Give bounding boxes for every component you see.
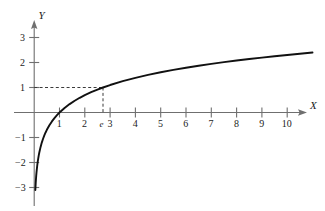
x-tick-label-9: 9 xyxy=(259,119,264,129)
x-tick-label-8: 8 xyxy=(234,119,239,129)
x-tick-label-7: 7 xyxy=(209,119,214,129)
x-tick-label-4: 4 xyxy=(133,119,138,129)
y-tick-label-minus-3: −3 xyxy=(15,183,26,193)
x-tick-label-e: e xyxy=(100,120,104,129)
y-tick-label-3: 3 xyxy=(20,33,25,43)
x-tick-label-10: 10 xyxy=(282,119,292,129)
x-tick-label-1: 1 xyxy=(57,119,62,129)
x-tick-label-2: 2 xyxy=(82,119,87,129)
logarithm-graph-figure: 1 2 3 4 5 6 7 8 9 10 e 3 2 1 −1 −2 −3 Y … xyxy=(0,0,325,211)
x-tick-label-3: 3 xyxy=(107,119,112,129)
y-tick-label-2: 2 xyxy=(20,58,25,68)
x-tick-label-5: 5 xyxy=(158,119,163,129)
y-tick-label-minus-2: −2 xyxy=(15,158,26,168)
y-axis-title: Y xyxy=(39,10,45,21)
y-tick-label-minus-1: −1 xyxy=(15,133,26,143)
plot-canvas xyxy=(0,0,325,211)
ln-curve xyxy=(35,53,312,190)
x-axis-title: X xyxy=(310,100,317,111)
x-tick-label-6: 6 xyxy=(183,119,188,129)
y-tick-label-1: 1 xyxy=(20,83,25,93)
